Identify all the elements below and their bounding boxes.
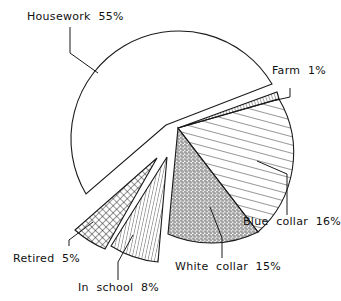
label-blue-collar: Blue collar 16%: [243, 215, 341, 228]
label-white-collar: White collar 15%: [175, 260, 281, 273]
label-in-school: In school 8%: [78, 281, 159, 294]
leader-housework: [70, 27, 98, 73]
label-housework: Housework 55%: [27, 10, 124, 23]
label-retired: Retired 5%: [13, 252, 80, 265]
label-farm: Farm 1%: [272, 64, 326, 77]
